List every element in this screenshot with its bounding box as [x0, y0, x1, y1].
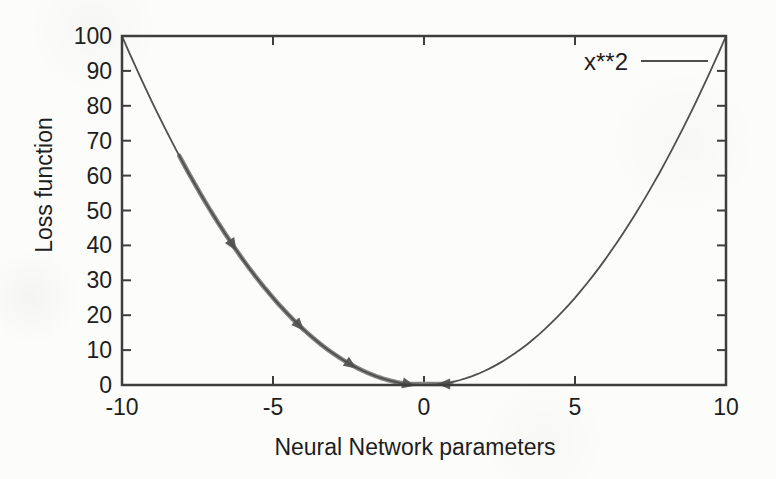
legend-series-label: x**2 [584, 48, 628, 75]
scanned-figure-page: -10-505100102030405060708090100 Neural N… [0, 0, 776, 479]
y-tick-label: 50 [86, 198, 112, 224]
tick-labels: -10-505100102030405060708090100 [74, 23, 739, 420]
y-tick-label: 80 [86, 93, 112, 119]
loss-function-chart: -10-505100102030405060708090100 Neural N… [0, 0, 776, 479]
x-tick-label: -5 [263, 394, 283, 420]
y-tick-label: 0 [99, 372, 112, 398]
y-tick-label: 40 [86, 232, 112, 258]
descent-path-line [179, 156, 451, 384]
y-tick-label: 20 [86, 302, 112, 328]
y-tick-label: 90 [86, 58, 112, 84]
x-tick-label: 10 [713, 394, 739, 420]
gradient-descent-path [179, 156, 451, 389]
y-tick-label: 60 [86, 163, 112, 189]
y-axis-label: Loss function [31, 117, 57, 253]
y-tick-label: 10 [86, 337, 112, 363]
x-tick-label: 0 [418, 394, 431, 420]
y-tick-label: 100 [74, 23, 112, 49]
y-tick-label: 70 [86, 128, 112, 154]
x-tick-label: 5 [569, 394, 582, 420]
y-tick-label: 30 [86, 267, 112, 293]
legend: x**2 [584, 48, 708, 75]
x-axis-label: Neural Network parameters [274, 434, 555, 460]
